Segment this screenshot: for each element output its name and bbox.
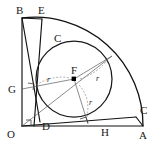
segment-O-F-tangency xyxy=(22,56,112,126)
label-G: G xyxy=(8,83,16,95)
segment-BE xyxy=(22,18,42,19)
radius-label-lower: r xyxy=(89,98,93,107)
right-angle-mark-H xyxy=(80,117,88,123)
radius-label-upper-right: r xyxy=(96,74,100,83)
radius-label-left: r xyxy=(47,75,51,84)
label-F: F xyxy=(71,64,77,76)
radius-F-arc xyxy=(74,56,112,79)
label-O: O xyxy=(7,128,15,140)
label-H: H xyxy=(101,126,109,138)
label-A: A xyxy=(139,129,147,141)
quarter-arc-BA xyxy=(22,17,143,126)
center-point-F xyxy=(72,77,76,81)
label-D: D xyxy=(42,120,50,132)
right-angle-mark-G xyxy=(28,83,34,90)
label-C-arc: C xyxy=(54,32,61,44)
segment-CA xyxy=(136,117,143,126)
label-E: E xyxy=(38,4,45,16)
geometry-figure: B E C C G F D H O A r r r xyxy=(0,0,154,143)
figure-canvas: B E C C G F D H O A r r r xyxy=(0,0,154,143)
label-C-edge: C xyxy=(140,104,147,116)
label-B: B xyxy=(16,4,23,16)
